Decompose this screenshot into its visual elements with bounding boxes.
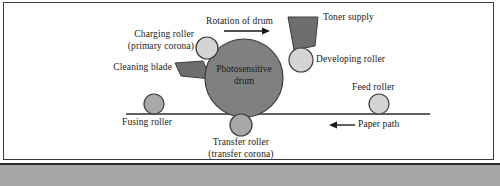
charging-roller-label-line2: (primary corona): [128, 41, 194, 51]
developing-roller-shape: [289, 48, 313, 72]
label-photosensitive-drum: Photosensitive drum: [206, 63, 282, 87]
transfer-roller-shape: [230, 114, 252, 136]
figure-screenshot: Charging roller (primary corona) Cleanin…: [0, 0, 500, 186]
toner-supply-shape: [288, 17, 318, 50]
label-cleaning-blade: Cleaning blade: [88, 62, 172, 74]
photosensitive-drum-label-line2: drum: [234, 76, 254, 86]
charging-roller-shape: [196, 37, 218, 59]
label-feed-roller: Feed roller: [352, 82, 395, 94]
paper-path-label: Paper path: [358, 119, 399, 129]
developing-roller-label: Developing roller: [316, 54, 385, 64]
label-developing-roller: Developing roller: [316, 54, 385, 66]
feed-roller-label: Feed roller: [352, 82, 395, 92]
label-toner-supply: Toner supply: [323, 12, 374, 24]
label-rotation-of-drum: Rotation of drum: [206, 16, 273, 28]
transfer-roller-label-line2: (transfer corona): [208, 149, 273, 159]
footer-band: [0, 165, 500, 186]
charging-roller-label-line1: Charging roller: [134, 29, 194, 39]
cleaning-blade-label: Cleaning blade: [113, 62, 172, 72]
label-paper-path: Paper path: [358, 119, 399, 131]
label-charging-roller: Charging roller (primary corona): [108, 29, 194, 52]
photosensitive-drum-label-line1: Photosensitive: [216, 64, 271, 74]
fusing-roller-shape: [144, 94, 164, 114]
fusing-roller-label: Fusing roller: [122, 117, 172, 127]
paper-path-arrow-icon: [329, 122, 355, 129]
transfer-roller-label-line1: Transfer roller: [213, 137, 269, 147]
rotation-of-drum-label: Rotation of drum: [206, 16, 273, 26]
label-fusing-roller: Fusing roller: [122, 117, 172, 129]
feed-roller-shape: [369, 94, 389, 114]
rotation-arrow-icon: [224, 28, 270, 35]
label-transfer-roller: Transfer roller (transfer corona): [189, 137, 293, 160]
toner-supply-label: Toner supply: [323, 12, 374, 22]
